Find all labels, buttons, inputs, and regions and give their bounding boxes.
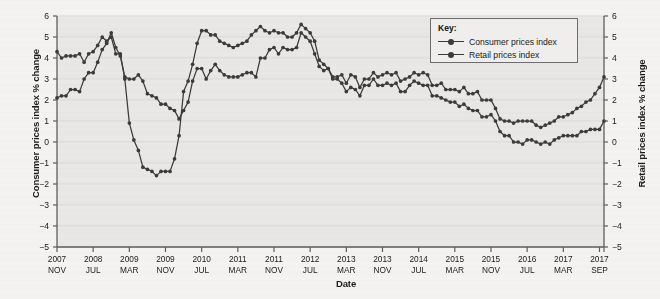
y-tick-label-right: 1 xyxy=(612,116,634,126)
legend-line-marker-icon xyxy=(438,37,464,46)
x-tick-month: JUL xyxy=(507,265,547,276)
x-tick-year: 2015 xyxy=(471,254,511,265)
x-tick-month: JUL xyxy=(182,265,222,276)
y-tick-label-right: 6 xyxy=(612,11,634,21)
x-tick-label: 2011MAR xyxy=(218,254,258,275)
x-tick-year: 2007 xyxy=(37,254,77,265)
x-tick-label: 2015NOV xyxy=(471,254,511,275)
legend-box: Key: Consumer prices index Retail prices… xyxy=(430,18,578,63)
x-tick-label: 2010JUL xyxy=(182,254,222,275)
y-tick-label-right: 4 xyxy=(612,53,634,63)
x-tick-year: 2011 xyxy=(218,254,258,265)
x-tick-year: 2009 xyxy=(109,254,149,265)
y-tick-label-left: −4 xyxy=(27,221,49,231)
x-tick-year: 2015 xyxy=(435,254,475,265)
x-tick-month: NOV xyxy=(471,265,511,276)
y-tick-label-left: 4 xyxy=(27,53,49,63)
y-tick-label-left: 0 xyxy=(27,137,49,147)
x-tick-year: 2013 xyxy=(326,254,366,265)
x-tick-label: 2008JUL xyxy=(73,254,113,275)
y-tick-label-right: −2 xyxy=(612,179,634,189)
y-tick-label-left: 5 xyxy=(27,32,49,42)
x-tick-month: NOV xyxy=(254,265,294,276)
x-tick-month: MAR xyxy=(435,265,475,276)
y-axis-right-title: Retail prices index % change xyxy=(636,4,647,244)
x-axis-title: Date xyxy=(16,278,660,289)
legend-label: Consumer prices index xyxy=(469,37,557,47)
x-tick-year: 2009 xyxy=(145,254,185,265)
x-tick-label: 2011NOV xyxy=(254,254,294,275)
x-tick-year: 2013 xyxy=(362,254,402,265)
y-tick-label-left: −2 xyxy=(27,179,49,189)
y-tick-label-right: −1 xyxy=(612,158,634,168)
x-tick-label: 2013MAR xyxy=(326,254,366,275)
x-tick-label: 2012JUL xyxy=(290,254,330,275)
x-tick-month: MAR xyxy=(326,265,366,276)
x-tick-year: 2016 xyxy=(507,254,547,265)
legend-entry-retail-prices-index: Retail prices index xyxy=(438,48,571,61)
x-tick-year: 2010 xyxy=(182,254,222,265)
x-tick-label: 2009MAR xyxy=(109,254,149,275)
x-tick-year: 2011 xyxy=(254,254,294,265)
x-tick-month: JUL xyxy=(290,265,330,276)
x-tick-label: 2017MAR xyxy=(543,254,583,275)
y-tick-label-right: −4 xyxy=(612,221,634,231)
x-tick-label: 2007NOV xyxy=(37,254,77,275)
x-tick-year: 2014 xyxy=(399,254,439,265)
x-tick-month: MAR xyxy=(109,265,149,276)
x-tick-year: 2008 xyxy=(73,254,113,265)
y-tick-label-left: 2 xyxy=(27,95,49,105)
x-tick-label: 2009NOV xyxy=(145,254,185,275)
y-tick-label-left: −3 xyxy=(27,200,49,210)
x-tick-year: 2017 xyxy=(579,254,619,265)
x-tick-month: JUL xyxy=(399,265,439,276)
x-tick-year: 2017 xyxy=(543,254,583,265)
x-tick-label: 2014JUL xyxy=(399,254,439,275)
chart-figure: Consumer prices index % change Retail pr… xyxy=(0,0,660,299)
x-tick-month: MAR xyxy=(218,265,258,276)
y-tick-label-left: 1 xyxy=(27,116,49,126)
y-tick-label-right: 3 xyxy=(612,74,634,84)
y-tick-label-right: 0 xyxy=(612,137,634,147)
legend-line-marker-icon xyxy=(438,50,464,59)
x-tick-year: 2012 xyxy=(290,254,330,265)
x-tick-month: NOV xyxy=(37,265,77,276)
x-tick-month: JUL xyxy=(73,265,113,276)
x-tick-label: 2013NOV xyxy=(362,254,402,275)
legend-title: Key: xyxy=(438,23,571,33)
y-tick-label-left: −5 xyxy=(27,242,49,252)
y-tick-label-right: −5 xyxy=(612,242,634,252)
y-tick-label-left: 6 xyxy=(27,11,49,21)
x-tick-month: SEP xyxy=(579,265,619,276)
y-tick-label-left: 3 xyxy=(27,74,49,84)
legend-entry-consumer-prices-index: Consumer prices index xyxy=(438,35,571,48)
x-tick-label: 2016JUL xyxy=(507,254,547,275)
x-tick-month: NOV xyxy=(362,265,402,276)
x-tick-month: MAR xyxy=(543,265,583,276)
legend-label: Retail prices index xyxy=(469,50,539,60)
y-tick-label-right: 5 xyxy=(612,32,634,42)
x-tick-month: NOV xyxy=(145,265,185,276)
y-tick-label-right: −3 xyxy=(612,200,634,210)
y-tick-label-left: −1 xyxy=(27,158,49,168)
x-tick-label: 2015MAR xyxy=(435,254,475,275)
y-tick-label-right: 2 xyxy=(612,95,634,105)
x-tick-label: 2017SEP xyxy=(579,254,619,275)
